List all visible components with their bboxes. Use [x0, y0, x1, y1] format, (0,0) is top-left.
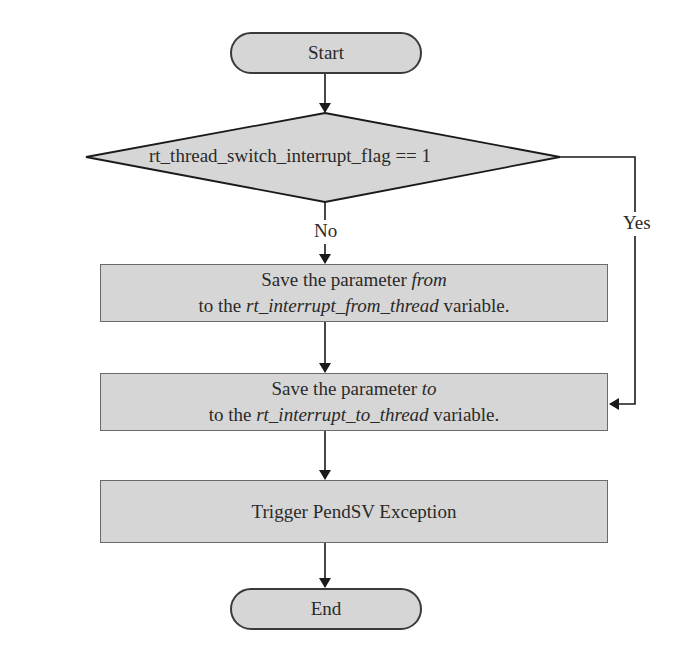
start-terminal: Start — [230, 32, 422, 74]
step1-text: Save the parameter — [261, 269, 411, 290]
step-save-from: Save the parameter from to the rt_interr… — [100, 264, 608, 322]
yes-branch-upper — [560, 157, 635, 212]
connectors — [0, 0, 694, 666]
step-save-from-line2: to the rt_interrupt_from_thread variable… — [198, 293, 509, 319]
end-label: End — [311, 596, 342, 622]
step-save-to-line1: Save the parameter to — [271, 376, 436, 402]
yes-branch-lower — [610, 236, 635, 404]
var-from-thread: rt_interrupt_from_thread — [246, 295, 439, 316]
step1-text: to the — [198, 295, 246, 316]
param-to: to — [422, 378, 437, 399]
decision-label: rt_thread_switch_interrupt_flag == 1 — [149, 145, 431, 167]
step-trigger-pendsv: Trigger PendSV Exception — [100, 480, 608, 543]
step2-text: Save the parameter — [271, 378, 421, 399]
step1-text: variable. — [439, 295, 510, 316]
step2-text: variable. — [429, 404, 500, 425]
no-branch-label: No — [312, 220, 339, 242]
start-label: Start — [308, 40, 344, 66]
var-to-thread: rt_interrupt_to_thread — [256, 404, 428, 425]
step-save-to: Save the parameter to to the rt_interrup… — [100, 373, 608, 431]
yes-branch-label: Yes — [621, 212, 653, 234]
step-save-to-line2: to the rt_interrupt_to_thread variable. — [209, 402, 500, 428]
end-terminal: End — [230, 588, 422, 630]
step-save-from-line1: Save the parameter from — [261, 267, 447, 293]
step3-label: Trigger PendSV Exception — [252, 499, 457, 525]
param-from: from — [412, 269, 447, 290]
step2-text: to the — [209, 404, 257, 425]
